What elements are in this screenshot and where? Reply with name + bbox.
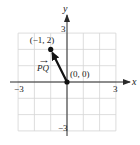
vector-label: → PQ xyxy=(36,55,50,73)
vector-label-text: PQ xyxy=(36,63,49,73)
y-tick-label: 3 xyxy=(61,24,66,34)
point-label-p: (0, 0) xyxy=(70,69,90,79)
x-tick-label: 3 xyxy=(113,84,118,94)
x-axis-label: x xyxy=(131,76,137,87)
point-label-q: (−1, 2) xyxy=(30,35,55,45)
vector-pq xyxy=(52,53,67,82)
point-q xyxy=(48,47,53,52)
y-axis-label: y xyxy=(62,3,68,14)
y-tick-label: −3 xyxy=(58,123,68,133)
point-p xyxy=(64,79,69,84)
coordinate-plane: x y −333−3 (0, 0)(−1, 2) → PQ xyxy=(0,0,140,145)
x-tick-label: −3 xyxy=(14,84,24,94)
